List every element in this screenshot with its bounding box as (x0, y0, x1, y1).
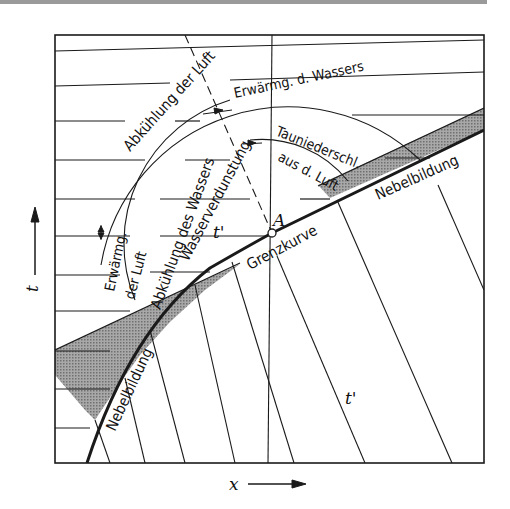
y-axis-arrow (31, 207, 39, 275)
point-a-label: A (271, 210, 285, 230)
label-der-luft: der Luft (121, 249, 149, 300)
point-a-marker (268, 229, 276, 237)
label-abkuehlung-luft: Abkühlung der Luft (120, 47, 219, 154)
x-axis-label: x (229, 474, 239, 494)
x-axis-arrow (248, 480, 306, 488)
mixing-diagram: A t x t' t' Abkühlung der Luft Erwärmg. … (0, 0, 510, 509)
region-label-upper: t' (213, 222, 225, 242)
region-label-lower: t' (345, 388, 357, 408)
fog-region-left (55, 264, 240, 420)
y-axis-label: t (22, 285, 42, 292)
top-rule (0, 0, 487, 4)
